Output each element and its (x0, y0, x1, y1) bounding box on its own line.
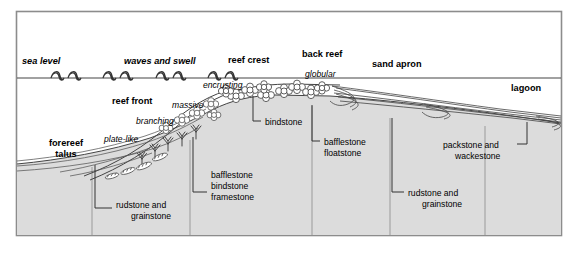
facies-text-line: rudstone and (116, 200, 166, 210)
facies-text-line: bindstone (211, 181, 248, 191)
facies-label-bafflestone-floatstone: bafflestone floatstone (324, 137, 366, 158)
label-waves-and-swell: waves and swell (124, 56, 196, 66)
facies-text-line: framestone (211, 192, 254, 202)
facies-text-line: grainstone (131, 211, 171, 221)
facies-text-line: grainstone (422, 199, 462, 209)
facies-text-line: wackestone (454, 151, 501, 161)
label-globular: globular (305, 69, 337, 79)
facies-text-line: packstone and (443, 140, 499, 150)
reef-cross-section-svg: sea level waves and swell reef crest bac… (0, 0, 578, 253)
reef-facies-diagram: sea level waves and swell reef crest bac… (0, 0, 578, 253)
facies-text-line: rudstone and (408, 188, 458, 198)
label-reef-front: reef front (112, 96, 152, 106)
label-massive: massive (172, 100, 204, 110)
label-reef-crest: reef crest (228, 55, 269, 65)
label-plate-like: plate-like (103, 134, 139, 144)
facies-text-line: bafflestone (324, 137, 366, 147)
label-sea-level: sea level (22, 56, 61, 66)
label-back-reef: back reef (302, 49, 343, 59)
facies-text-line: floatstone (324, 148, 361, 158)
label-branching: branching (136, 116, 174, 126)
label-lagoon: lagoon (511, 83, 541, 93)
facies-label-bindstone: bindstone (265, 117, 302, 127)
label-talus: talus (55, 149, 76, 159)
facies-text-line: bindstone (265, 117, 302, 127)
label-forereef: forereef (49, 138, 84, 148)
facies-text-line: bafflestone (211, 170, 253, 180)
label-sand-apron: sand apron (372, 59, 422, 69)
facies-label-bafflestone-bindstone-framestone: bafflestone bindstone framestone (211, 170, 254, 202)
label-encrusting: encrusting (203, 80, 243, 90)
